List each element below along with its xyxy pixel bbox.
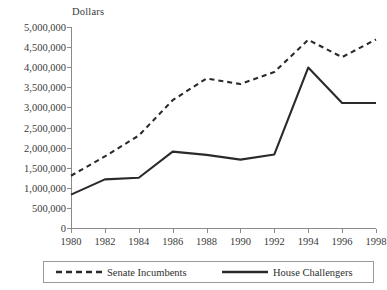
- x-axis-tick-mark: [308, 229, 309, 233]
- y-axis-tick-label: 1,500,000: [0, 162, 66, 173]
- x-axis-tick-label: 1984: [128, 236, 149, 247]
- x-axis-tick-label: 1988: [196, 236, 217, 247]
- x-axis-tick-mark: [342, 229, 343, 233]
- x-axis-tick-label: 1980: [61, 236, 82, 247]
- legend-item-house-challengers: House Challengers: [222, 262, 353, 282]
- y-axis-title: Dollars: [72, 6, 104, 17]
- x-axis-tick-mark: [71, 229, 72, 233]
- series-lines: [71, 27, 376, 228]
- y-axis-tick-label: 3,500,000: [0, 82, 66, 93]
- x-axis-tick-label: 1998: [366, 236, 387, 247]
- y-axis-tick-label: 2,000,000: [0, 142, 66, 153]
- legend-label-house-challengers: House Challengers: [273, 267, 353, 278]
- x-axis-tick-mark: [139, 229, 140, 233]
- chart-legend: Senate Incumbents House Challengers: [43, 261, 374, 283]
- y-axis-tick-label: 2,500,000: [0, 122, 66, 133]
- y-axis-tick-label: 4,500,000: [0, 42, 66, 53]
- y-axis-tick-label: 0: [0, 223, 66, 234]
- x-axis-tick-mark: [207, 229, 208, 233]
- dashed-line-icon: [56, 267, 102, 277]
- x-axis-tick-mark: [240, 229, 241, 233]
- legend-label-senate-incumbents: Senate Incumbents: [107, 267, 187, 278]
- solid-line-icon: [222, 267, 268, 277]
- x-axis-tick-label: 1996: [332, 236, 353, 247]
- y-axis-tick-labels: 0500,0001,000,0001,500,0002,000,0002,500…: [0, 0, 66, 290]
- plot-area: [71, 27, 376, 228]
- series-line-house-challengers: [71, 68, 376, 195]
- y-axis-tick-label: 5,000,000: [0, 22, 66, 33]
- x-axis-line: [71, 228, 376, 229]
- y-axis-tick-label: 1,000,000: [0, 182, 66, 193]
- legend-item-senate-incumbents: Senate Incumbents: [56, 262, 187, 282]
- x-axis-tick-mark: [173, 229, 174, 233]
- y-axis-tick-label: 3,000,000: [0, 102, 66, 113]
- series-line-senate-incumbents: [71, 39, 376, 175]
- y-axis-tick-label: 4,000,000: [0, 62, 66, 73]
- x-axis-tick-mark: [376, 229, 377, 233]
- x-axis-tick-label: 1982: [94, 236, 115, 247]
- x-axis-tick-label: 1994: [298, 236, 319, 247]
- x-axis-tick-mark: [274, 229, 275, 233]
- x-axis-tick-label: 1990: [230, 236, 251, 247]
- x-axis-tick-label: 1992: [264, 236, 285, 247]
- y-axis-tick-label: 500,000: [0, 202, 66, 213]
- x-axis-tick-label: 1986: [162, 236, 183, 247]
- x-axis-tick-mark: [105, 229, 106, 233]
